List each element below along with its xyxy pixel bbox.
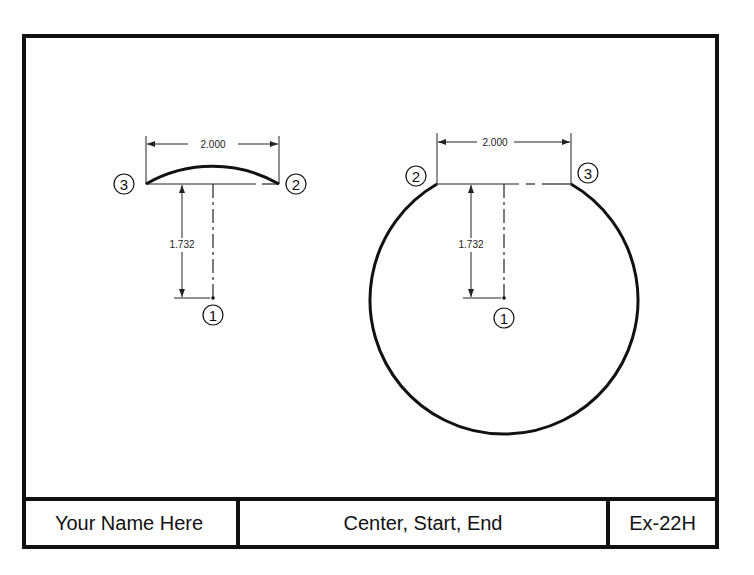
- name-cell: Your Name Here: [22, 501, 240, 545]
- right-point-3-label: 3: [584, 165, 592, 182]
- right-point-2-label: 2: [412, 168, 420, 185]
- left-arc-figure: 2.000 1.732 3 2 1: [114, 136, 306, 325]
- left-point-1-label: 1: [209, 307, 217, 324]
- left-chord-dimension: 2.000: [200, 139, 225, 150]
- right-height-dimension: 1.732: [458, 239, 483, 250]
- right-point-1-label: 1: [500, 310, 508, 327]
- left-height-dimension: 1.732: [169, 239, 194, 250]
- drawing-canvas: 2.000 1.732 3 2 1 2.000: [0, 0, 754, 575]
- drawing-title-cell: Center, Start, End: [240, 501, 610, 545]
- right-chord-dimension: 2.000: [482, 137, 507, 148]
- title-block: Your Name Here Center, Start, End Ex-22H: [22, 497, 715, 545]
- left-point-3-label: 3: [120, 176, 128, 193]
- right-circle-figure: 2.000 1.732 2 3 1: [370, 133, 638, 434]
- left-point-2-label: 2: [292, 176, 300, 193]
- exercise-number-cell: Ex-22H: [610, 501, 715, 545]
